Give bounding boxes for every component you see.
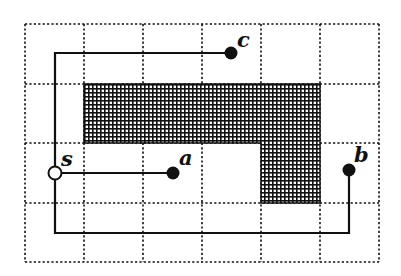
node-s: [49, 167, 62, 180]
label-s: s: [60, 146, 73, 171]
node-a: [167, 167, 180, 180]
grid-path-diagram: s a b c: [0, 0, 401, 276]
obstacle-region: [84, 84, 320, 203]
label-c: c: [237, 27, 250, 52]
node-c: [225, 47, 238, 60]
label-a: a: [179, 145, 193, 170]
label-b: b: [354, 142, 369, 167]
